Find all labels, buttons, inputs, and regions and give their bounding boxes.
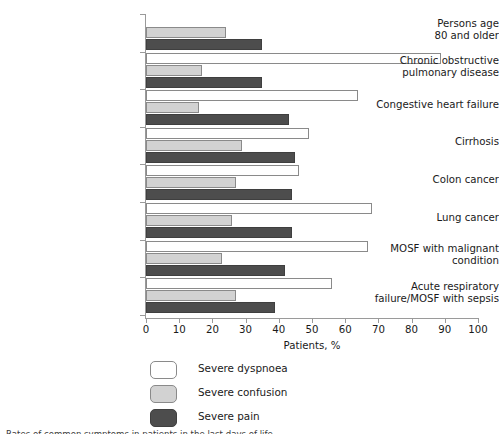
bar-confusion <box>146 215 232 226</box>
bar-dyspnoea <box>146 165 299 176</box>
category-label-line: Cirrhosis <box>361 136 499 148</box>
x-tick <box>312 318 313 323</box>
x-tick <box>412 318 413 323</box>
category-label-line: Chronic obstructive <box>361 55 499 67</box>
bar-confusion <box>146 27 226 38</box>
category-label: Chronic obstructivepulmonary disease <box>361 55 499 80</box>
x-tick-label: 60 <box>330 324 360 335</box>
y-tick <box>140 164 146 165</box>
x-tick <box>478 318 479 323</box>
x-tick-label: 40 <box>264 324 294 335</box>
x-axis-title: Patients, % <box>146 340 478 351</box>
bar-dyspnoea <box>146 203 372 214</box>
x-tick-label: 30 <box>231 324 261 335</box>
category-label: Cirrhosis <box>361 136 499 148</box>
x-tick-label: 90 <box>430 324 460 335</box>
y-tick <box>140 240 146 241</box>
bar-pain <box>146 227 292 238</box>
y-tick <box>140 202 146 203</box>
bar-confusion <box>146 253 222 264</box>
bar-dyspnoea <box>146 90 358 101</box>
category-label-line: condition <box>361 255 499 267</box>
category-label-line: Persons age <box>361 18 499 30</box>
bar-confusion <box>146 140 242 151</box>
bar-confusion <box>146 290 236 301</box>
bar-confusion <box>146 102 199 113</box>
x-tick <box>146 318 147 323</box>
x-tick <box>246 318 247 323</box>
bar-pain <box>146 265 285 276</box>
legend-swatch-white <box>150 361 177 379</box>
category-label-line: MOSF with malignant <box>361 243 499 255</box>
category-label-line: Acute respiratory <box>361 281 499 293</box>
y-tick <box>140 52 146 53</box>
bar-dyspnoea <box>146 278 332 289</box>
bar-pain <box>146 189 292 200</box>
y-tick <box>140 89 146 90</box>
bar-dyspnoea <box>146 241 368 252</box>
bar-dyspnoea <box>146 128 309 139</box>
x-tick-label: 50 <box>297 324 327 335</box>
legend-label: Severe confusion <box>198 386 287 398</box>
y-tick <box>140 315 146 316</box>
category-label: Persons age80 and older <box>361 18 499 43</box>
bar-confusion <box>146 65 202 76</box>
category-label: MOSF with malignantcondition <box>361 243 499 268</box>
category-label-line: Congestive heart failure <box>361 99 499 111</box>
category-label-line: failure/MOSF with sepsis <box>361 293 499 305</box>
x-tick <box>445 318 446 323</box>
x-tick-label: 70 <box>363 324 393 335</box>
category-label-line: Colon cancer <box>361 174 499 186</box>
x-tick <box>279 318 280 323</box>
x-tick-label: 100 <box>463 324 493 335</box>
legend-swatch-light-gray <box>150 385 177 403</box>
y-tick <box>140 277 146 278</box>
category-label-line: Lung cancer <box>361 212 499 224</box>
grouped-bar-chart: Persons age80 and olderChronic obstructi… <box>0 0 499 434</box>
bar-pain <box>146 302 275 313</box>
x-tick-label: 0 <box>131 324 161 335</box>
x-tick <box>378 318 379 323</box>
category-label: Colon cancer <box>361 174 499 186</box>
category-label: Congestive heart failure <box>361 99 499 111</box>
figure-caption: Rates of common symptoms in patients in … <box>6 429 496 434</box>
x-tick-label: 80 <box>397 324 427 335</box>
y-tick <box>140 14 146 15</box>
bar-pain <box>146 39 262 50</box>
x-tick <box>212 318 213 323</box>
x-tick <box>179 318 180 323</box>
legend-label: Severe pain <box>198 410 260 422</box>
x-tick-label: 10 <box>164 324 194 335</box>
category-label: Acute respiratoryfailure/MOSF with sepsi… <box>361 281 499 306</box>
category-label-line: pulmonary disease <box>361 67 499 79</box>
category-label-line: 80 and older <box>361 30 499 42</box>
x-tick-label: 20 <box>197 324 227 335</box>
bar-pain <box>146 114 289 125</box>
legend-swatch-dark-gray <box>150 409 177 427</box>
y-tick <box>140 127 146 128</box>
bar-confusion <box>146 177 236 188</box>
x-tick <box>345 318 346 323</box>
category-label: Lung cancer <box>361 212 499 224</box>
bar-pain <box>146 77 262 88</box>
legend-label: Severe dyspnoea <box>198 362 288 374</box>
bar-pain <box>146 152 295 163</box>
